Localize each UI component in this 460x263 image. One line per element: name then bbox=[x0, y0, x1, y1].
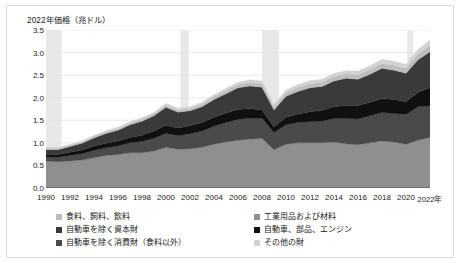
legend-column-left: 食料、飼料、飲料自動車を除く資本財自動車を除く消費財（食料以外） bbox=[56, 210, 241, 249]
legend-item[interactable]: 自動車を除く資本財 bbox=[56, 223, 241, 236]
x-axis-tick-label: 2012 bbox=[301, 193, 319, 202]
legend-item-label: 食料、飼料、飲料 bbox=[66, 213, 130, 221]
legend-item[interactable]: 自動車を除く消費財（食料以外） bbox=[56, 236, 241, 249]
y-axis-tick-label: 1.0 bbox=[33, 138, 44, 147]
x-axis-tick-label: 2004 bbox=[205, 193, 223, 202]
x-axis-tick-label: 2018 bbox=[373, 193, 391, 202]
legend-item[interactable]: 工業用品および材料 bbox=[254, 210, 439, 223]
x-axis-tick-label: 2010 bbox=[277, 193, 295, 202]
x-axis-tick-label: 2022年 bbox=[418, 193, 443, 204]
x-axis-tick-label: 2014 bbox=[325, 193, 343, 202]
y-axis-tick-label: 1.5 bbox=[33, 116, 44, 125]
y-axis-tick-label: 3.5 bbox=[33, 26, 44, 35]
legend-swatch-icon bbox=[56, 227, 62, 233]
legend-item-label: 工業用品および材料 bbox=[264, 213, 336, 221]
legend-item-label: 自動車を除く資本財 bbox=[66, 226, 138, 234]
legend-swatch-icon bbox=[254, 214, 260, 220]
legend-item-label: 自動車を除く消費財（食料以外） bbox=[66, 239, 186, 247]
legend-column-right: 工業用品および材料自動車、部品、エンジンその他の財 bbox=[254, 210, 439, 249]
y-axis-tick-label: 0.5 bbox=[33, 161, 44, 170]
x-axis-tick-label: 1996 bbox=[109, 193, 127, 202]
legend-swatch-icon bbox=[56, 240, 62, 246]
y-axis: 0.00.51.01.52.02.53.03.5 bbox=[18, 30, 44, 188]
chart-legend: 食料、飼料、飲料自動車を除く資本財自動車を除く消費財（食料以外） 工業用品および… bbox=[46, 210, 438, 252]
x-axis-tick-label: 2016 bbox=[349, 193, 367, 202]
x-axis-tick-label: 1994 bbox=[85, 193, 103, 202]
x-axis-tick-label: 2000 bbox=[157, 193, 175, 202]
x-axis-tick-label: 2006 bbox=[229, 193, 247, 202]
legend-item[interactable]: 自動車、部品、エンジン bbox=[254, 223, 439, 236]
stacked-area-svg bbox=[46, 30, 430, 188]
x-axis-tick-label: 2002 bbox=[181, 193, 199, 202]
x-axis-tick-label: 1992 bbox=[61, 193, 79, 202]
x-axis-tick-label: 2020 bbox=[397, 193, 415, 202]
legend-item-label: その他の財 bbox=[264, 239, 304, 247]
legend-swatch-icon bbox=[254, 227, 260, 233]
x-axis-tick-label: 1998 bbox=[133, 193, 151, 202]
legend-swatch-icon bbox=[254, 240, 260, 246]
plot-area bbox=[46, 30, 430, 188]
y-axis-tick-label: 0.0 bbox=[33, 184, 44, 193]
y-axis-title: 2022年価格（兆ドル） bbox=[27, 13, 110, 25]
legend-swatch-icon bbox=[56, 214, 62, 220]
chart-figure: 2022年価格（兆ドル） 0.00.51.01.52.02.53.03.5 19… bbox=[0, 0, 460, 263]
x-axis-tick-label: 2008 bbox=[253, 193, 271, 202]
y-axis-tick-label: 2.5 bbox=[33, 71, 44, 80]
x-axis-tick-label: 1990 bbox=[37, 193, 55, 202]
legend-item[interactable]: 食料、飼料、飲料 bbox=[56, 210, 241, 223]
y-axis-tick-label: 3.0 bbox=[33, 48, 44, 57]
legend-item[interactable]: その他の財 bbox=[254, 236, 439, 249]
y-axis-tick-label: 2.0 bbox=[33, 93, 44, 102]
x-axis: 1990199219941996199820002002200420062008… bbox=[46, 190, 436, 206]
legend-item-label: 自動車、部品、エンジン bbox=[264, 226, 352, 234]
